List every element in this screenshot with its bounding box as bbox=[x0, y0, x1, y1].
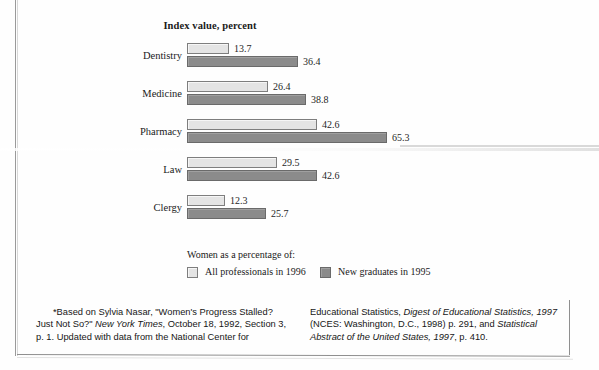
footnote-column-right: Educational Statistics, Digest of Educat… bbox=[310, 306, 566, 343]
bar-value-label: 26.4 bbox=[273, 80, 291, 93]
chart-title: Index value, percent bbox=[0, 20, 420, 31]
footnote-left-line2-pre: Just Not So?" bbox=[36, 319, 95, 329]
footnote-left-citation-title: New York Times bbox=[95, 319, 162, 329]
bar-clergy-all-professionals bbox=[187, 195, 225, 206]
bar-value-label: 29.5 bbox=[282, 156, 300, 169]
bar-law-new-graduates bbox=[187, 170, 317, 181]
category-label-clergy: Clergy bbox=[60, 201, 182, 214]
page-edge-shadow bbox=[17, 357, 573, 360]
footnote-box-border-right bbox=[569, 300, 570, 355]
legend-item-all-professionals: All professionals in 1996 bbox=[187, 266, 306, 278]
bar-group: Medicine26.438.8 bbox=[0, 80, 599, 108]
legend-swatch-dark-icon bbox=[320, 267, 331, 278]
bar-value-label: 65.3 bbox=[392, 131, 410, 144]
legend-item-new-graduates: New graduates in 1995 bbox=[320, 266, 430, 278]
bar-value-label: 42.6 bbox=[322, 118, 340, 131]
legend-items: All professionals in 1996 New graduates … bbox=[187, 266, 517, 280]
category-label-pharmacy: Pharmacy bbox=[60, 125, 182, 138]
bar-medicine-all-professionals bbox=[187, 81, 268, 92]
footnote-right-line3-post: , p. 410. bbox=[454, 332, 488, 342]
category-label-law: Law bbox=[60, 163, 182, 176]
bar-value-label: 42.6 bbox=[322, 169, 340, 182]
bar-chart-plot-area: Dentistry13.736.4Medicine26.438.8Pharmac… bbox=[0, 40, 599, 245]
footnote-right-line1-pre: Educational Statistics, bbox=[310, 307, 404, 317]
footnote-left-line1: *Based on Sylvia Nasar, "Women's Progres… bbox=[53, 307, 273, 317]
footnote-right-citation-year: 1997 bbox=[536, 307, 557, 317]
chart-legend: Women as a percentage of: All profession… bbox=[187, 249, 517, 280]
legend-swatch-light-icon bbox=[187, 267, 198, 278]
bar-value-label: 38.8 bbox=[311, 93, 329, 106]
bar-medicine-new-graduates bbox=[187, 94, 306, 105]
bar-value-label: 12.3 bbox=[230, 194, 248, 207]
bar-value-label: 36.4 bbox=[303, 55, 321, 68]
legend-label-all-professionals: All professionals in 1996 bbox=[205, 266, 306, 278]
bar-group: Dentistry13.736.4 bbox=[0, 42, 599, 70]
bar-value-label: 13.7 bbox=[234, 42, 252, 55]
bar-law-all-professionals bbox=[187, 157, 277, 168]
bar-dentistry-new-graduates bbox=[187, 56, 298, 67]
bar-dentistry-all-professionals bbox=[187, 43, 229, 54]
bar-group: Clergy12.325.7 bbox=[0, 194, 599, 222]
bar-group: Pharmacy42.665.3 bbox=[0, 118, 599, 146]
legend-caption: Women as a percentage of: bbox=[187, 249, 517, 261]
category-label-dentistry: Dentistry bbox=[60, 49, 182, 62]
footnote-block: *Based on Sylvia Nasar, "Women's Progres… bbox=[36, 306, 566, 343]
footnote-right-line2-post: (NCES: Washington, D.C., 1998) p. 291, a… bbox=[310, 319, 495, 329]
figure-page: Index value, percent Dentistry13.736.4Me… bbox=[0, 0, 599, 370]
bar-clergy-new-graduates bbox=[187, 208, 266, 219]
category-label-medicine: Medicine bbox=[60, 87, 182, 100]
bar-value-label: 25.7 bbox=[271, 207, 289, 220]
footnote-column-left: *Based on Sylvia Nasar, "Women's Progres… bbox=[36, 306, 288, 343]
bar-group: Law29.542.6 bbox=[0, 156, 599, 184]
bar-pharmacy-new-graduates bbox=[187, 132, 387, 143]
footnote-right-citation-title-1: Digest of Educational Statistics, bbox=[404, 307, 534, 317]
bar-pharmacy-all-professionals bbox=[187, 119, 317, 130]
footnote-left-line2-post: , October 18, 1992, Section bbox=[163, 319, 276, 329]
legend-label-new-graduates: New graduates in 1995 bbox=[338, 266, 430, 278]
